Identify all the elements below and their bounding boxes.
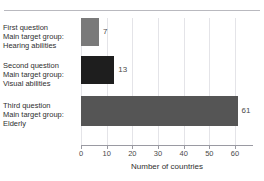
category-label-3-line2: Main target group: bbox=[3, 110, 79, 119]
category-label-3-line3: Elderly bbox=[3, 119, 79, 128]
category-label-2: Second question Main target group: Visua… bbox=[3, 61, 79, 89]
bar-third-question[interactable] bbox=[81, 96, 238, 126]
x-axis-title: Number of countries bbox=[81, 163, 253, 171]
category-label-1-line2: Main target group: bbox=[3, 32, 79, 41]
bar-chart-figure: First question Main target group: Hearin… bbox=[0, 0, 264, 181]
category-label-1-line1: First question bbox=[3, 23, 79, 32]
category-label-1: First question Main target group: Hearin… bbox=[3, 23, 79, 51]
x-axis-tick-label: 40 bbox=[180, 150, 188, 158]
x-axis-tick-label: 60 bbox=[231, 150, 239, 158]
category-label-1-line3: Hearing abilities bbox=[3, 41, 79, 50]
bar-second-question[interactable] bbox=[81, 56, 114, 84]
bar-value-third-question: 61 bbox=[242, 107, 251, 115]
x-axis-tick-label: 0 bbox=[79, 150, 83, 158]
category-label-2-line1: Second question bbox=[3, 61, 79, 70]
category-label-3-line1: Third question bbox=[3, 101, 79, 110]
x-axis-tick-label: 20 bbox=[128, 150, 136, 158]
x-axis-tick-label: 30 bbox=[154, 150, 162, 158]
x-axis-tick-label: 50 bbox=[205, 150, 213, 158]
bar-first-question[interactable] bbox=[81, 18, 99, 46]
category-label-2-line2: Main target group: bbox=[3, 70, 79, 79]
category-label-3: Third question Main target group: Elderl… bbox=[3, 101, 79, 129]
plot-area: 7 13 61 bbox=[81, 18, 253, 145]
bar-value-second-question: 13 bbox=[118, 66, 127, 74]
bar-value-first-question: 7 bbox=[103, 28, 107, 36]
x-axis-tick-label: 10 bbox=[102, 150, 110, 158]
category-label-2-line3: Visual abilities bbox=[3, 79, 79, 88]
top-divider bbox=[4, 10, 260, 11]
